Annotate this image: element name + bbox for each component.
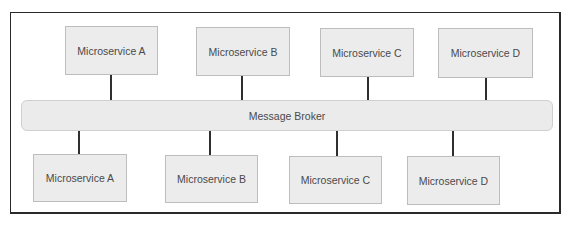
bottom-service-a: Microservice A bbox=[33, 154, 127, 202]
connector-bottom-a bbox=[78, 131, 80, 154]
top-service-a: Microservice A bbox=[65, 26, 158, 75]
message-broker: Message Broker bbox=[21, 100, 553, 131]
connector-bottom-b bbox=[209, 131, 211, 155]
bottom-service-d: Microservice D bbox=[407, 156, 500, 205]
connector-top-d bbox=[485, 77, 487, 100]
connector-top-b bbox=[241, 75, 243, 100]
connector-bottom-c bbox=[336, 131, 338, 156]
connector-bottom-d bbox=[452, 131, 454, 156]
bottom-service-c: Microservice C bbox=[289, 156, 382, 204]
connector-top-a bbox=[110, 74, 112, 100]
top-service-c: Microservice C bbox=[320, 28, 414, 77]
top-service-b: Microservice B bbox=[196, 27, 290, 76]
connector-top-c bbox=[367, 76, 369, 100]
bottom-service-b: Microservice B bbox=[165, 155, 258, 203]
top-service-d: Microservice D bbox=[438, 28, 533, 78]
